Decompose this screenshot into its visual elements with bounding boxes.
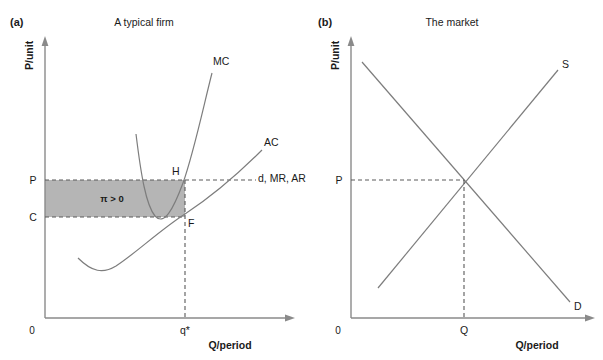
panel-b-ytick-p: P	[335, 174, 342, 186]
panel-a-x-axis-arrowhead	[285, 315, 295, 322]
panel-a-y-axis-arrowhead	[42, 36, 49, 46]
panel-b-title: The market	[425, 16, 478, 28]
mc-curve-label: MC	[213, 55, 230, 67]
ac-curve-label: AC	[264, 136, 279, 148]
profit-region-label: π > 0	[100, 193, 123, 204]
panel-a-ytick-c: C	[29, 211, 37, 223]
demand-curve-label-market: D	[574, 300, 582, 312]
panel-a-origin: 0	[29, 325, 35, 336]
panel-b-x-axis-arrowhead	[585, 315, 595, 322]
panel-a: (a) A typical firm MC AC d, MR, AR	[10, 16, 306, 351]
panel-a-tag: (a)	[10, 16, 24, 28]
panel-b-tag: (b)	[318, 16, 332, 28]
panel-b-x-axis-title: Q/period	[515, 339, 558, 351]
point-label-f: F	[188, 217, 194, 229]
panel-a-x-axis-title: Q/period	[208, 339, 251, 351]
point-label-h: H	[172, 165, 180, 177]
panel-b-origin: 0	[335, 325, 341, 336]
supply-curve-label: S	[562, 58, 569, 70]
panel-a-ytick-p: P	[29, 174, 36, 186]
market-supply-curve	[378, 70, 558, 288]
panel-a-xtick-qstar: q*	[180, 324, 190, 336]
economics-figure: (a) A typical firm MC AC d, MR, AR	[0, 0, 603, 360]
panel-b-y-axis-arrowhead	[348, 36, 355, 46]
panel-b: (b) The market S D P Q 0 P/uni	[318, 16, 595, 351]
panel-a-title: A typical firm	[114, 16, 174, 28]
panel-b-xtick-q: Q	[460, 324, 468, 336]
panel-b-y-axis-title: P/unit	[329, 40, 341, 70]
panel-a-y-axis-title: P/unit	[23, 40, 35, 70]
demand-curve-label: d, MR, AR	[258, 172, 306, 184]
figure-canvas: (a) A typical firm MC AC d, MR, AR	[0, 0, 603, 360]
